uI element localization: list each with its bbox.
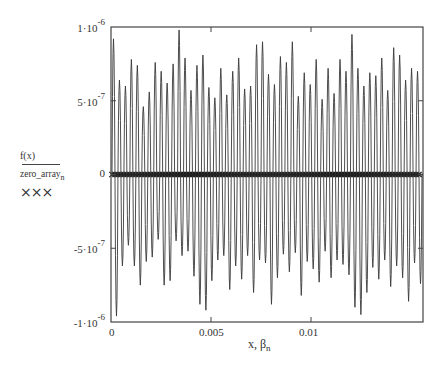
x-axis-title: x, βn <box>248 337 271 353</box>
legend-divider <box>22 164 60 165</box>
x-tick-label: 0.005 <box>199 326 224 338</box>
legend-zero-array-label: zero_arrayn <box>20 169 65 182</box>
x-tick-label: 0 <box>109 326 115 338</box>
series-zero-array <box>109 172 423 177</box>
y-tick-label: -5·10-7 <box>74 240 105 255</box>
x-tick-label: 0.01 <box>299 326 318 338</box>
y-tick-label: 0 <box>100 167 106 179</box>
plot-canvas <box>0 0 443 369</box>
legend-f-label: f(x) <box>20 150 65 161</box>
legend-cross-markers-icon: ××× <box>20 184 65 200</box>
y-tick-label: 1·10-6 <box>77 19 105 34</box>
legend: f(x) zero_arrayn ××× <box>20 150 65 200</box>
y-tick-label: 5·10-7 <box>77 93 105 108</box>
y-tick-label: -1·10-6 <box>74 314 105 329</box>
